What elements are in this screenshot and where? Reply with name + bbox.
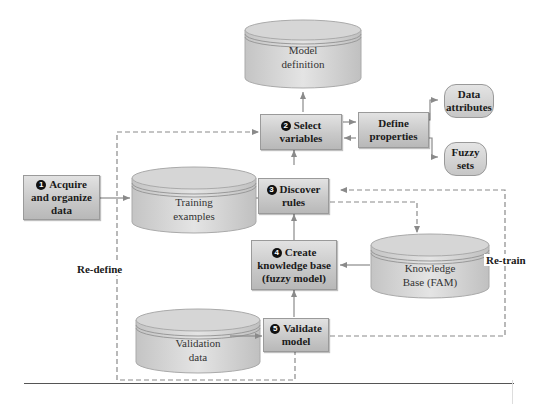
process-label: properties: [369, 130, 417, 143]
store-label-line2: data: [136, 351, 260, 364]
step-label: rules: [267, 196, 321, 209]
step-5-validate-model: 5Validate model: [263, 318, 329, 352]
output-label: Data: [446, 88, 492, 101]
step-number-badge: 3: [267, 185, 277, 195]
step-1-acquire-data: 1Acquire and organize data: [23, 175, 100, 220]
store-label-line2: Base (FAM): [371, 276, 489, 289]
step-2-select-variables: 2Select variables: [260, 114, 342, 150]
step-label: knowledge base: [257, 259, 331, 272]
step-label: and organize: [31, 191, 92, 204]
step-label: Validate: [283, 322, 322, 334]
loop-label-retrain: Re-train: [484, 254, 528, 266]
loop-label-redefine: Re-define: [75, 263, 124, 275]
step-number-badge: 4: [272, 248, 282, 258]
store-label-line1: Training: [132, 196, 256, 209]
store-label-line1: Knowledge: [371, 262, 489, 275]
step-label: (fuzzy model): [257, 272, 331, 285]
store-label-line2: examples: [132, 210, 256, 223]
step-label: Acquire: [49, 178, 87, 190]
step-label: model: [270, 335, 322, 348]
step-3-discover-rules: 3Discover rules: [258, 178, 329, 214]
page-rule: [24, 383, 514, 384]
output-label: sets: [451, 159, 479, 172]
store-label-line1: Model: [245, 44, 361, 57]
step-label: variables: [280, 132, 323, 145]
process-define-properties: Define properties: [358, 112, 429, 148]
step-label: Create: [285, 246, 317, 258]
process-label: Define: [369, 117, 417, 130]
step-label: Discover: [280, 183, 321, 195]
output-label: attributes: [446, 101, 492, 114]
page-edge: [512, 380, 513, 404]
step-label: Select: [294, 119, 321, 131]
step-label: data: [31, 204, 92, 217]
output-label: Fuzzy: [451, 146, 479, 159]
output-fuzzy-sets: Fuzzy sets: [444, 142, 487, 176]
step-number-badge: 5: [270, 324, 280, 334]
step-number-badge: 1: [36, 180, 46, 190]
store-label-line2: definition: [245, 58, 361, 71]
output-data-attributes: Data attributes: [444, 84, 494, 118]
step-4-create-knowledge-base: 4Create knowledge base (fuzzy model): [251, 240, 337, 290]
step-number-badge: 2: [281, 121, 291, 131]
store-label-line1: Validation: [136, 337, 260, 350]
